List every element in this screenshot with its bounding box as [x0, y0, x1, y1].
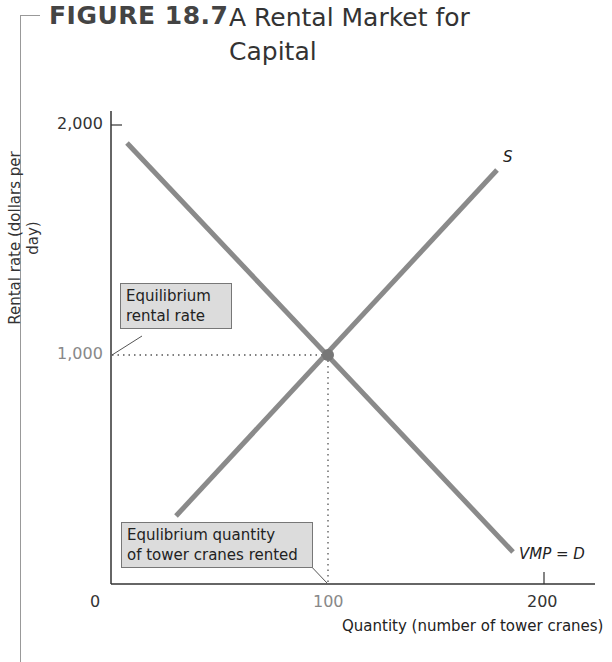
supply-curve: [176, 170, 497, 516]
y-tick-label-1000: 1,000: [57, 344, 103, 363]
x-axis-label: Quantity (number of tower cranes): [342, 617, 603, 635]
annotation-equilibrium-quantity: Equlibrium quantity of tower cranes rent…: [121, 522, 313, 568]
annotation-line: Equilibrium: [126, 286, 226, 306]
x-tick-label-0: 0: [90, 592, 100, 611]
x-tick-label-200: 200: [527, 592, 558, 611]
annotation-line: rental rate: [126, 306, 226, 326]
y-tick-label-2000: 2,000: [57, 114, 103, 133]
demand-label: VMP = D: [519, 545, 585, 563]
x-tick-label-100: 100: [313, 592, 344, 611]
y-axis-label: Rental rate (dollars per day): [6, 138, 42, 338]
supply-label: S: [503, 148, 513, 166]
demand-curve: [127, 143, 513, 552]
annotation-line: Equlibrium quantity: [127, 525, 307, 545]
eq-rate-leader: [112, 336, 142, 355]
annotation-line: of tower cranes rented: [127, 545, 307, 565]
equilibrium-point: [322, 349, 334, 361]
annotation-equilibrium-rate: Equilibrium rental rate: [120, 283, 232, 329]
